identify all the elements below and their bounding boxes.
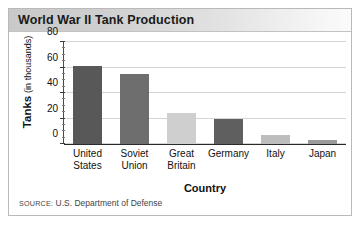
bar bbox=[73, 66, 101, 144]
y-tick-label: 80 bbox=[47, 26, 58, 37]
x-tick-label-line: Union bbox=[111, 160, 158, 172]
x-axis-title: Country bbox=[64, 182, 346, 194]
y-axis-title: Tanks (in thousands) bbox=[21, 28, 33, 136]
bar-slot bbox=[252, 42, 299, 144]
x-tick-label-line: Britain bbox=[158, 160, 205, 172]
bar-slot bbox=[299, 42, 346, 144]
x-tick-label-line: United bbox=[64, 148, 111, 160]
y-tick-label: 0 bbox=[52, 128, 58, 139]
x-tick-label: Germany bbox=[205, 148, 252, 171]
bar bbox=[167, 113, 195, 144]
bar-slot bbox=[205, 42, 252, 144]
source-value: U.S. Department of Defense bbox=[56, 198, 163, 208]
y-tick-label: 40 bbox=[47, 77, 58, 88]
axes: 020406080 bbox=[64, 42, 346, 144]
x-tick-label-line: Japan bbox=[299, 148, 346, 160]
source-note: SOURCE: U.S. Department of Defense bbox=[19, 198, 162, 208]
bar bbox=[261, 135, 289, 144]
bar bbox=[120, 74, 148, 144]
chart-figure: World War II Tank Production Tanks (in t… bbox=[0, 0, 360, 227]
bar-series bbox=[64, 42, 346, 144]
x-tick-label-line: Italy bbox=[252, 148, 299, 160]
y-axis-title-main: Tanks bbox=[21, 96, 33, 128]
x-tick-label: Italy bbox=[252, 148, 299, 171]
x-axis-tick-labels: UnitedStatesSovietUnionGreatBritainGerma… bbox=[64, 148, 346, 171]
source-label: SOURCE: bbox=[19, 199, 53, 208]
x-tick-label-line: Great bbox=[158, 148, 205, 160]
x-tick-label: GreatBritain bbox=[158, 148, 205, 171]
bar bbox=[308, 140, 336, 144]
plot-area: Tanks (in thousands) 020406080 UnitedSta… bbox=[9, 32, 353, 217]
bar-slot bbox=[111, 42, 158, 144]
y-axis-title-unit: (in thousands) bbox=[23, 36, 33, 93]
x-tick-label-line: Soviet bbox=[111, 148, 158, 160]
bar-slot bbox=[158, 42, 205, 144]
x-tick-label: UnitedStates bbox=[64, 148, 111, 171]
x-tick-label-line: Germany bbox=[205, 148, 252, 160]
y-tick-label: 60 bbox=[47, 51, 58, 62]
x-tick-label: SovietUnion bbox=[111, 148, 158, 171]
chart-frame: World War II Tank Production Tanks (in t… bbox=[8, 8, 352, 216]
x-tick-label: Japan bbox=[299, 148, 346, 171]
chart-title: World War II Tank Production bbox=[18, 13, 194, 27]
bar-slot bbox=[64, 42, 111, 144]
bar bbox=[214, 119, 242, 145]
x-tick-label-line: States bbox=[64, 160, 111, 172]
y-tick-label: 20 bbox=[47, 102, 58, 113]
